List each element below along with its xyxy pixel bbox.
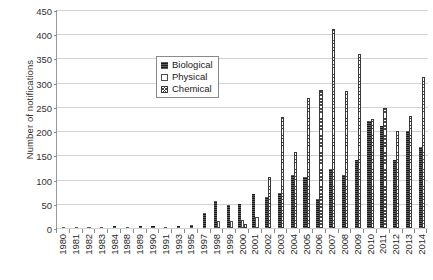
bar-group — [403, 10, 416, 228]
x-axis-labels: 1980198119821983198419881989199019911993… — [56, 234, 427, 278]
bar-biological — [164, 227, 167, 228]
x-tick-label: 1984 — [108, 234, 119, 255]
x-tick-label-cell: 1990 — [146, 234, 159, 278]
bar-group — [275, 10, 288, 228]
x-tick-label: 1980 — [57, 234, 68, 255]
x-tick-mark — [82, 229, 95, 233]
legend-item: Biological — [161, 60, 213, 70]
bar-biological — [62, 227, 65, 228]
x-tick-label-cell: 2006 — [312, 234, 325, 278]
x-tick-label-cell: 1980 — [56, 234, 69, 278]
bar-chemical — [332, 29, 335, 228]
bar-biological — [203, 213, 206, 228]
bar-chemical — [244, 224, 247, 228]
bar-group — [172, 10, 185, 228]
x-tick-mark — [312, 229, 325, 233]
x-tick-mark — [56, 229, 69, 233]
bar-chemical — [383, 108, 386, 228]
bar-chemical — [319, 90, 322, 228]
y-tick-label: 200 — [36, 127, 52, 138]
x-tick-label: 1995 — [185, 234, 196, 255]
bar-group — [326, 10, 339, 228]
x-tick-label-cell: 2000 — [235, 234, 248, 278]
x-tick-label-cell: 2004 — [286, 234, 299, 278]
x-tick-label: 2004 — [287, 234, 298, 255]
x-tick-label-cell: 1988 — [120, 234, 133, 278]
x-tick-label: 2014 — [415, 234, 426, 255]
bar-biological — [139, 226, 142, 228]
x-tick-label: 1990 — [146, 234, 157, 255]
x-tick-mark — [299, 229, 312, 233]
x-tick-label: 2003 — [274, 234, 285, 255]
bar-biological — [126, 227, 129, 228]
bar-group — [223, 10, 236, 228]
x-tick-label-cell: 2003 — [274, 234, 287, 278]
x-tick-mark — [363, 229, 376, 233]
bar-chemical — [307, 98, 310, 228]
x-tick-label-cell: 1982 — [82, 234, 95, 278]
x-tick-label-cell: 2007 — [325, 234, 338, 278]
bar-group — [70, 10, 83, 228]
x-tick-label: 1988 — [121, 234, 132, 255]
x-tick-label: 2005 — [300, 234, 311, 255]
bar-group — [108, 10, 121, 228]
x-tick-mark — [171, 229, 184, 233]
x-tick-label: 2008 — [338, 234, 349, 255]
x-tick-label-cell: 1999 — [222, 234, 235, 278]
x-tick-mark — [338, 229, 351, 233]
bar-chemical — [422, 77, 425, 228]
x-tick-label: 2001 — [249, 234, 260, 255]
x-tick-label-cell: 1997 — [197, 234, 210, 278]
x-axis-ticks — [56, 229, 427, 233]
y-tick-label: 50 — [41, 199, 52, 210]
bar-chemical — [294, 152, 297, 228]
x-tick-label: 1989 — [134, 234, 145, 255]
bar-group — [377, 10, 390, 228]
bar-physical — [230, 221, 233, 228]
x-tick-label-cell: 2001 — [248, 234, 261, 278]
x-tick-label-cell: 2014 — [414, 234, 427, 278]
bar-group — [351, 10, 364, 228]
y-axis-title: Number of notifications — [24, 25, 35, 195]
x-tick-label-cell: 2009 — [350, 234, 363, 278]
bar-groups — [57, 10, 428, 228]
y-tick-label: 250 — [36, 102, 52, 113]
x-tick-mark — [376, 229, 389, 233]
x-tick-label: 2009 — [351, 234, 362, 255]
x-tick-label: 1991 — [159, 234, 170, 255]
bar-biological — [151, 226, 154, 228]
bar-chemical — [345, 91, 348, 228]
x-tick-label-cell: 1998 — [210, 234, 223, 278]
x-tick-label: 2011 — [377, 234, 388, 254]
x-tick-label: 2007 — [326, 234, 337, 255]
x-tick-label-cell: 1989 — [133, 234, 146, 278]
y-tick-label: 0 — [47, 224, 52, 235]
x-tick-mark — [197, 229, 210, 233]
bar-biological — [190, 225, 193, 228]
x-tick-label: 2006 — [313, 234, 324, 255]
bar-physical — [217, 221, 220, 228]
bar-group — [287, 10, 300, 228]
bar-group — [57, 10, 70, 228]
y-tick-label: 400 — [36, 30, 52, 41]
x-tick-label: 1981 — [70, 234, 81, 255]
x-tick-label-cell: 2002 — [261, 234, 274, 278]
legend: Biological Physical Chemical — [156, 56, 219, 98]
x-tick-mark — [402, 229, 415, 233]
bar-chemical — [396, 131, 399, 228]
x-tick-mark — [184, 229, 197, 233]
legend-label: Physical — [172, 72, 207, 82]
x-tick-mark — [210, 229, 223, 233]
x-tick-label: 1982 — [82, 234, 93, 255]
legend-label: Chemical — [172, 84, 212, 94]
x-tick-label-cell: 1983 — [94, 234, 107, 278]
plot-area: 050100150200250300350400450 Biological P… — [56, 10, 428, 229]
x-tick-mark — [248, 229, 261, 233]
bar-chemical — [409, 116, 412, 228]
bar-chart-figure: Number of notifications 0501001502002503… — [0, 0, 433, 280]
x-tick-label: 1997 — [198, 234, 209, 255]
x-tick-mark — [133, 229, 146, 233]
bar-biological — [113, 226, 116, 228]
x-tick-label-cell: 1993 — [171, 234, 184, 278]
legend-swatch-biological-icon — [161, 62, 168, 69]
